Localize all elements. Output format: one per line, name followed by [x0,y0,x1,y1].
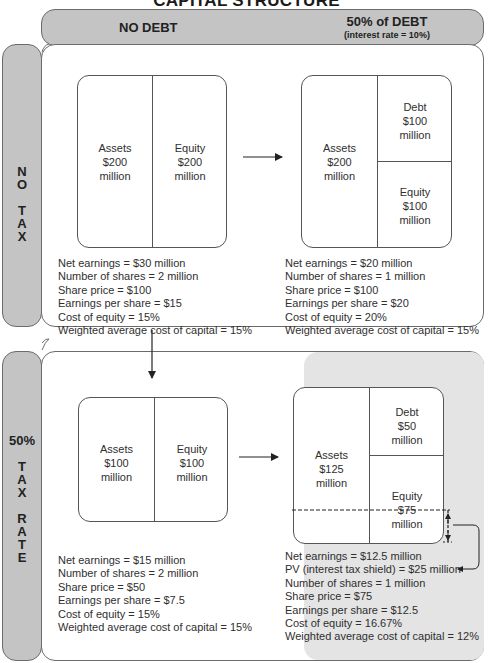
assets-label: Assets [294,448,369,462]
column-header-bar: NO DEBT 50% of DEBT (interest rate = 10%… [41,9,484,46]
equity-value: $200 [153,155,227,169]
stat-line: Earnings per share = $20 [285,297,479,310]
equity-unit: million [370,517,444,531]
stat-line: Cost of equity = 15% [58,311,252,324]
equity-unit: million [155,470,229,484]
balance-sheet-no-tax-debt: Assets $200 million Debt $100 million Eq… [301,75,452,248]
stats-tax-no-debt: Net earnings = $15 million Number of sha… [58,554,252,634]
assets-label: Assets [302,141,377,155]
assets-label: Assets [78,141,152,155]
equity-label: Equity [155,442,229,456]
debt-unit: million [370,433,444,447]
assets-unit: million [79,470,154,484]
assets-value: $200 [78,155,152,169]
equity-block: Equity $100 million [155,442,229,484]
stat-line: Weighted average cost of capital = 15% [58,621,252,634]
stat-line: PV (interest tax shield) = $25 million [285,563,479,576]
stat-line: Cost of equity = 16.67% [285,617,479,630]
row-header-tax-pct: 50% [9,434,35,447]
row-header-letter: O [17,178,27,191]
row-header-tax-rate: 50% T A X R A T E [2,351,42,661]
assets-block: Assets $100 million [79,442,154,484]
equity-value: $75 [370,503,444,517]
stat-line: Weighted average cost of capital = 15% [285,324,479,337]
assets-value: $100 [79,456,154,470]
stat-line: Number of shares = 1 million [285,577,479,590]
equity-label: Equity [370,489,444,503]
assets-value: $125 [294,462,369,476]
stat-line: Cost of equity = 20% [285,311,479,324]
assets-unit: million [78,169,152,183]
assets-block: Assets $200 million [78,141,152,183]
column-header-debt-label: 50% of DEBT [317,14,457,29]
assets-value: $200 [302,155,377,169]
stat-line: Share price = $100 [58,284,252,297]
equity-unit: million [378,213,452,227]
equity-unit: million [153,169,227,183]
stat-line: Number of shares = 1 million [285,270,479,283]
column-header-no-debt: NO DEBT [119,20,178,35]
stat-line: Earnings per share = $15 [58,297,252,310]
divider [377,161,451,162]
stat-line: Weighted average cost of capital = 12% [285,630,479,643]
panel-no-tax: Assets $200 million Equity $200 million … [41,44,484,327]
row-header-letter: E [18,551,27,564]
stat-line: Net earnings = $20 million [285,257,479,270]
equity-block: Equity $100 million [378,185,452,227]
assets-label: Assets [79,442,154,456]
balance-sheet-tax-debt: Assets $125 million Debt $50 million Equ… [293,387,444,544]
panel-tax-rate: Assets $100 million Equity $100 million … [41,351,484,661]
divider [369,455,443,456]
row-header-letter: X [18,486,27,499]
stat-line: Earnings per share = $7.5 [58,594,252,607]
equity-value: $100 [378,199,452,213]
row-header-no-tax: N O T A X [2,44,42,327]
stats-no-tax-no-debt: Net earnings = $30 million Number of sha… [58,257,252,337]
debt-block: Debt $50 million [370,405,444,447]
balance-sheet-tax-no-debt: Assets $100 million Equity $100 million [78,397,228,522]
stat-line: Number of shares = 2 million [58,270,252,283]
stat-line: Share price = $100 [285,284,479,297]
column-header-debt-sublabel: (interest rate = 10%) [317,30,457,40]
assets-block: Assets $125 million [294,448,369,490]
debt-value: $50 [370,419,444,433]
debt-block: Debt $100 million [378,100,452,142]
stat-line: Weighted average cost of capital = 15% [58,324,252,337]
debt-value: $100 [378,114,452,128]
debt-unit: million [378,128,452,142]
equity-block: Equity $75 million [370,489,444,531]
debt-label: Debt [370,405,444,419]
equity-value: $100 [155,456,229,470]
equity-block: Equity $200 million [153,141,227,183]
stat-line: Net earnings = $15 million [58,554,252,567]
stat-line: Net earnings = $12.5 million [285,550,479,563]
assets-block: Assets $200 million [302,141,377,183]
stat-line: Cost of equity = 15% [58,608,252,621]
stat-line: Earnings per share = $12.5 [285,604,479,617]
stat-line: Net earnings = $30 million [58,257,252,270]
stat-line: Number of shares = 2 million [58,567,252,580]
stat-line: Share price = $75 [285,590,479,603]
balance-sheet-no-tax-no-debt: Assets $200 million Equity $200 million [77,75,227,248]
equity-label: Equity [153,141,227,155]
stats-tax-debt: Net earnings = $12.5 million PV (interes… [285,550,479,644]
assets-unit: million [302,169,377,183]
assets-unit: million [294,476,369,490]
equity-label: Equity [378,185,452,199]
column-header-debt: 50% of DEBT (interest rate = 10%) [317,14,457,40]
debt-label: Debt [378,100,452,114]
row-header-letter: X [18,230,27,243]
stat-line: Share price = $50 [58,581,252,594]
stats-no-tax-debt: Net earnings = $20 million Number of sha… [285,257,479,337]
